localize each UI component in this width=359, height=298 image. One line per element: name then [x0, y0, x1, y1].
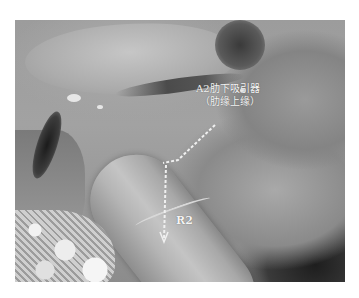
label-r2: R2 — [176, 215, 193, 227]
label-a2: A2肋下吸引器 — [196, 83, 260, 95]
surgical-photo — [15, 20, 345, 282]
specular-highlight — [97, 105, 103, 109]
label-a2-subtitle: （肋缘上缘） — [200, 96, 260, 108]
specular-highlight — [67, 94, 81, 102]
cut-off-caption: ··· ··· ····· ·· ····· ··· ····· ·· — [40, 293, 350, 298]
upper-right-cavity — [215, 20, 265, 70]
